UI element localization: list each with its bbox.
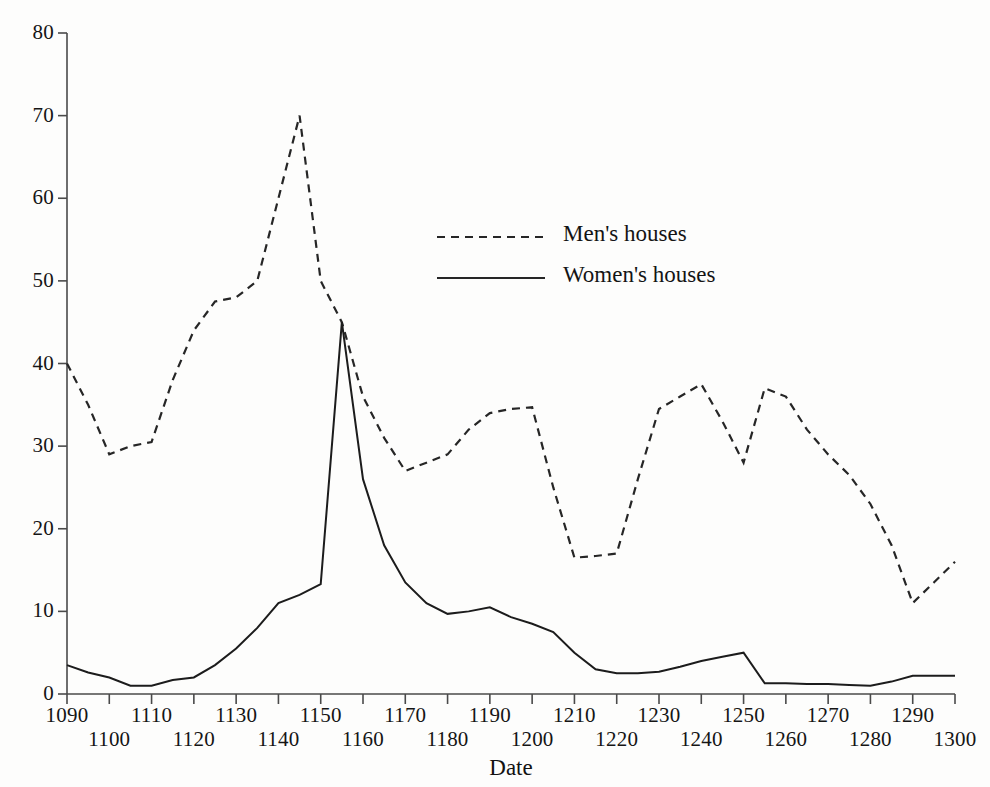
x-tick-label: 1110: [107, 703, 197, 728]
x-tick-label: 1180: [403, 727, 493, 752]
x-tick-label: 1120: [149, 727, 239, 752]
x-tick-label: 1150: [276, 703, 366, 728]
x-tick-label: 1170: [360, 703, 450, 728]
x-tick-label: 1270: [783, 703, 873, 728]
x-tick-label: 1160: [318, 727, 408, 752]
y-tick-label: 70: [8, 103, 54, 128]
y-tick-label: 60: [8, 185, 54, 210]
data-series: [67, 116, 955, 686]
axes: [58, 33, 955, 704]
x-tick-label: 1260: [741, 727, 831, 752]
x-tick-label: 1140: [233, 727, 323, 752]
chart-figure: 01020304050607080 1090110011101120113011…: [0, 0, 990, 787]
x-axis-title: Date: [411, 755, 611, 781]
x-tick-label: 1100: [64, 727, 154, 752]
x-tick-label: 1230: [614, 703, 704, 728]
y-tick-label: 50: [8, 268, 54, 293]
x-tick-label: 1220: [572, 727, 662, 752]
x-tick-label: 1290: [868, 703, 958, 728]
line-chart-plot: [0, 0, 990, 787]
x-tick-label: 1210: [529, 703, 619, 728]
legend-item-womens-houses: Women's houses: [563, 262, 715, 288]
x-tick-label: 1130: [191, 703, 281, 728]
y-tick-label: 40: [8, 351, 54, 376]
y-tick-label: 80: [8, 20, 54, 45]
series-line-mens-houses: [67, 116, 955, 603]
x-tick-label: 1190: [445, 703, 535, 728]
y-tick-label: 10: [8, 598, 54, 623]
y-tick-label: 30: [8, 433, 54, 458]
x-tick-label: 1090: [22, 703, 112, 728]
x-tick-label: 1250: [699, 703, 789, 728]
x-tick-label: 1300: [910, 727, 990, 752]
legend-sample-lines: [437, 237, 545, 278]
x-tick-label: 1200: [487, 727, 577, 752]
x-tick-label: 1240: [656, 727, 746, 752]
legend-item-mens-houses: Men's houses: [563, 221, 687, 247]
y-tick-label: 20: [8, 516, 54, 541]
series-line-womens-houses: [67, 322, 955, 686]
x-tick-label: 1280: [825, 727, 915, 752]
